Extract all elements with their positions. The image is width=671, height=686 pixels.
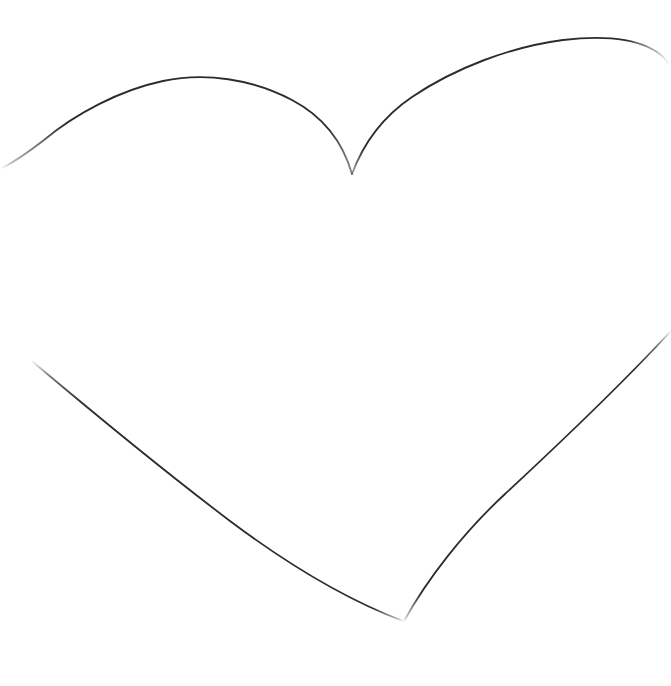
heart-outline-drawing: Heart Outline Drawing xyxy=(0,0,671,686)
drawing-canvas: Heart Outline Drawing xyxy=(0,0,671,686)
